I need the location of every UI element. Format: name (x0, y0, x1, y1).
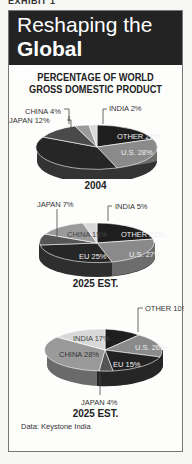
label-india-2025a: INDIA 5% (115, 202, 148, 211)
label-india-2025b: INDIA 17% (73, 334, 110, 343)
chart-subtitle: PERCENTAGE OF WORLD GROSS DOMESTIC PRODU… (19, 71, 171, 95)
label-other-2025b: OTHER 10% (145, 304, 184, 313)
year-label-2025-a: 2025 EST. (18, 277, 174, 289)
label-china-2004: CHINA 4% (25, 107, 61, 116)
title-bold: Global (17, 37, 82, 60)
year-label-2025-b: 2025 EST. (18, 407, 174, 419)
label-eu-2025b: EU 15% (113, 360, 141, 369)
pie-chart-2004: CHINA 4% INDIA 2% JAPAN 12% OTHER 20% U.… (9, 95, 184, 179)
label-india-2004: INDIA 2% (109, 104, 142, 113)
label-other-2025a: OTHER 21% (121, 230, 165, 239)
label-us-2025b: U.S. 26% (135, 343, 167, 352)
subtitle-line-2: GROSS DOMESTIC PRODUCT (19, 83, 171, 95)
pie-chart-2025-b: OTHER 10% INDIA 17% CHINA 28% U.S. 26% E… (9, 295, 184, 407)
pie-chart-2025-a: JAPAN 7% INDIA 5% CHINA 15% OTHER 21% EU… (9, 199, 184, 277)
header-banner: Reshaping the Global Economy (9, 11, 182, 65)
subtitle-line-1: PERCENTAGE OF WORLD (19, 71, 171, 83)
label-japan-2004: JAPAN 12% (9, 116, 50, 125)
label-japan-2025b: JAPAN 4% (81, 398, 118, 407)
label-china-2025b: CHINA 28% (59, 350, 99, 359)
data-source: Data: Keystone India (21, 422, 182, 431)
label-china-2025a: CHINA 15% (67, 230, 107, 239)
label-other-2004: OTHER 20% (117, 132, 161, 141)
label-us-2025a: U.S. 27% (129, 250, 161, 259)
label-japan-2025a: JAPAN 7% (37, 200, 74, 209)
exhibit-label: EXHIBIT 1 (8, 0, 56, 6)
label-eu-2025a: EU 25% (79, 252, 107, 261)
infographic-frame: Reshaping the Global Economy PERCENTAGE … (8, 10, 183, 452)
title-line-1: Reshaping the (17, 13, 174, 37)
label-us-2004: U.S. 28% (121, 148, 153, 157)
year-label-2004: 2004 (18, 179, 174, 191)
